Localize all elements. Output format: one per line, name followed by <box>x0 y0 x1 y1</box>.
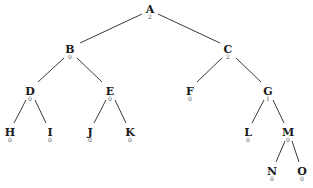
tree-node-B: B 0 <box>62 44 78 60</box>
tree-node-K: K 0 <box>122 127 138 143</box>
edge-B-E <box>77 58 102 82</box>
node-value: 0 <box>182 96 198 102</box>
node-value: 0 <box>82 137 98 143</box>
tree-node-G: G 1 <box>260 86 276 102</box>
tree-node-D: D 0 <box>22 86 38 102</box>
tree-node-H: H 0 <box>2 127 18 143</box>
edge-A-B <box>80 14 142 43</box>
tree-node-M: M 0 <box>280 127 296 143</box>
edge-B-D <box>38 58 64 82</box>
edge-G-M <box>273 100 284 123</box>
edge-G-L <box>252 100 264 123</box>
edge-C-G <box>236 58 261 82</box>
tree-node-I: I 0 <box>42 127 58 143</box>
edge-D-I <box>35 100 46 123</box>
node-value: 0 <box>240 137 256 143</box>
tree-node-E: E 0 <box>102 86 118 102</box>
node-value: 2 <box>142 14 158 20</box>
tree-node-F: F 0 <box>182 86 198 102</box>
binary-tree-diagram: A 2 B 0 C 2 D 0 E 0 F 0 G 1 H 0 I 0 J 0 … <box>0 0 313 188</box>
tree-node-A: A 2 <box>142 4 158 20</box>
edge-E-J <box>94 100 106 123</box>
edge-M-O <box>292 141 299 162</box>
node-value: 0 <box>42 137 58 143</box>
edge-C-F <box>197 58 222 82</box>
tree-node-C: C 2 <box>220 44 236 60</box>
node-value: 0 <box>102 96 118 102</box>
tree-node-O: O 0 <box>294 166 310 182</box>
node-value: 2 <box>220 54 236 60</box>
edge-D-H <box>14 100 26 123</box>
edge-A-C <box>158 14 220 43</box>
edge-E-K <box>115 100 126 123</box>
tree-node-J: J 0 <box>82 127 98 143</box>
edge-M-N <box>276 141 285 162</box>
tree-node-L: L 0 <box>240 127 256 143</box>
tree-node-N: N 0 <box>264 166 280 182</box>
